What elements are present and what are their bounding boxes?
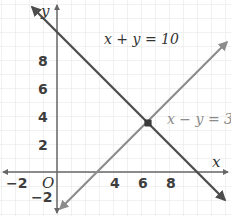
x-tick-neg-2: −2 — [6, 176, 27, 190]
y-axis-label: y — [41, 4, 49, 19]
equation-label-line-2: x − y = 3 — [167, 112, 231, 126]
y-tick-6: 6 — [38, 82, 48, 96]
x-tick-8: 8 — [166, 176, 176, 190]
y-tick-4: 4 — [38, 110, 48, 124]
y-tick-neg-2: −2 — [31, 190, 52, 204]
y-tick-2: 2 — [38, 138, 48, 152]
graph-figure: y x O 8 6 4 2 −2 −2 4 6 8 x + y = 10 x −… — [0, 0, 231, 216]
x-tick-4: 4 — [110, 176, 120, 190]
x-axis-label: x — [212, 155, 220, 170]
equation-label-line-1: x + y = 10 — [104, 32, 179, 46]
x-tick-6: 6 — [138, 176, 148, 190]
y-tick-8: 8 — [38, 54, 48, 68]
intersection-point — [144, 119, 151, 126]
